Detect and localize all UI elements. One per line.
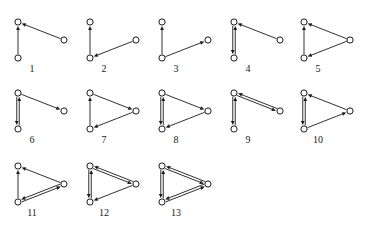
vertex-A[interactable] — [15, 163, 21, 169]
vertex-A[interactable] — [15, 90, 21, 96]
diagram-8[interactable]: 8 — [159, 90, 211, 145]
edge-line — [311, 25, 347, 39]
vertex-C[interactable] — [133, 108, 139, 114]
diagram-6[interactable]: 6 — [15, 90, 67, 145]
edge-line — [21, 94, 57, 108]
diagram-5[interactable]: 5 — [301, 19, 353, 74]
vertex-C[interactable] — [133, 181, 139, 187]
edges-group-9 — [231, 93, 277, 125]
diagram-9[interactable]: 9 — [231, 90, 283, 145]
edges-group-1 — [16, 23, 60, 54]
edge-line — [25, 184, 61, 198]
vertex-B[interactable] — [15, 55, 21, 61]
vertex-B[interactable] — [301, 55, 307, 61]
edges-group-8 — [159, 94, 205, 127]
arrowhead — [17, 97, 21, 101]
diagram-11[interactable]: 11 — [15, 163, 67, 218]
arrowhead — [89, 170, 93, 174]
edge-line — [166, 188, 202, 202]
diagram-13[interactable]: 13 — [159, 163, 211, 218]
diagram-label: 4 — [246, 63, 251, 74]
vertex-A[interactable] — [231, 90, 237, 96]
edge-line — [169, 184, 205, 198]
arrowhead — [159, 194, 163, 198]
edges-group-3 — [160, 26, 204, 57]
diagram-2[interactable]: 2 — [87, 19, 139, 74]
directed-graphs-figure: 12345678910111213 — [0, 0, 370, 230]
vertex-B[interactable] — [231, 126, 237, 132]
vertex-B[interactable] — [159, 55, 165, 61]
vertex-C[interactable] — [277, 108, 283, 114]
diagram-7[interactable]: 7 — [87, 90, 139, 145]
vertex-A[interactable] — [87, 19, 93, 25]
vertex-A[interactable] — [159, 163, 165, 169]
edge-line — [22, 188, 58, 202]
edge-line — [165, 43, 201, 57]
vertex-B[interactable] — [231, 55, 237, 61]
arrowhead — [88, 26, 92, 30]
vertex-A[interactable] — [159, 19, 165, 25]
nodes-group-8 — [159, 90, 211, 132]
edge-line — [169, 112, 205, 126]
vertex-C[interactable] — [347, 37, 353, 43]
arrowhead — [303, 97, 307, 101]
diagram-1[interactable]: 1 — [15, 19, 67, 74]
nodes-group-2 — [87, 19, 139, 61]
edge-line — [311, 96, 347, 110]
vertex-A[interactable] — [87, 163, 93, 169]
vertex-C[interactable] — [61, 37, 67, 43]
vertex-B[interactable] — [15, 126, 21, 132]
arrowhead — [233, 97, 237, 101]
vertex-A[interactable] — [159, 90, 165, 96]
arrowhead — [302, 26, 306, 30]
vertex-C[interactable] — [133, 37, 139, 43]
edges-group-12 — [87, 166, 133, 201]
vertex-C[interactable] — [61, 181, 67, 187]
arrowhead — [231, 50, 235, 54]
nodes-group-1 — [15, 19, 67, 61]
arrowhead — [15, 121, 19, 125]
vertex-B[interactable] — [15, 199, 21, 205]
vertex-C[interactable] — [205, 108, 211, 114]
vertex-B[interactable] — [159, 199, 165, 205]
vertex-B[interactable] — [87, 126, 93, 132]
diagram-4[interactable]: 4 — [231, 19, 283, 74]
diagram-10[interactable]: 10 — [301, 90, 353, 145]
nodes-group-3 — [159, 19, 211, 61]
figure-canvas: 12345678910111213 — [0, 0, 370, 230]
edges-group-11 — [16, 167, 61, 202]
diagram-12[interactable]: 12 — [87, 163, 139, 218]
vertex-B[interactable] — [159, 126, 165, 132]
edge-line — [25, 169, 61, 183]
diagram-label: 5 — [316, 63, 321, 74]
vertex-C[interactable] — [61, 108, 67, 114]
vertex-C[interactable] — [277, 37, 283, 43]
vertex-A[interactable] — [87, 90, 93, 96]
edge-line — [93, 94, 129, 108]
vertex-B[interactable] — [87, 199, 93, 205]
vertex-A[interactable] — [231, 19, 237, 25]
edge-line — [241, 25, 277, 39]
vertex-C[interactable] — [205, 181, 211, 187]
edge-line — [97, 185, 133, 199]
edge-line — [307, 114, 343, 128]
vertex-C[interactable] — [205, 37, 211, 43]
diagram-label: 2 — [102, 63, 107, 74]
nodes-group-10 — [301, 90, 353, 132]
diagram-label: 7 — [102, 134, 107, 145]
vertex-A[interactable] — [301, 19, 307, 25]
nodes-group-5 — [301, 19, 353, 61]
vertex-B[interactable] — [301, 126, 307, 132]
edge-line — [25, 25, 61, 39]
vertex-B[interactable] — [87, 55, 93, 61]
diagram-3[interactable]: 3 — [159, 19, 211, 74]
arrowhead — [16, 170, 20, 174]
edges-group-13 — [159, 166, 205, 202]
vertex-A[interactable] — [15, 19, 21, 25]
edge-line — [165, 169, 201, 183]
vertex-A[interactable] — [301, 90, 307, 96]
edges-group-10 — [301, 94, 347, 127]
edges-group-7 — [88, 94, 132, 127]
vertex-C[interactable] — [347, 108, 353, 114]
diagram-label: 6 — [30, 134, 35, 145]
